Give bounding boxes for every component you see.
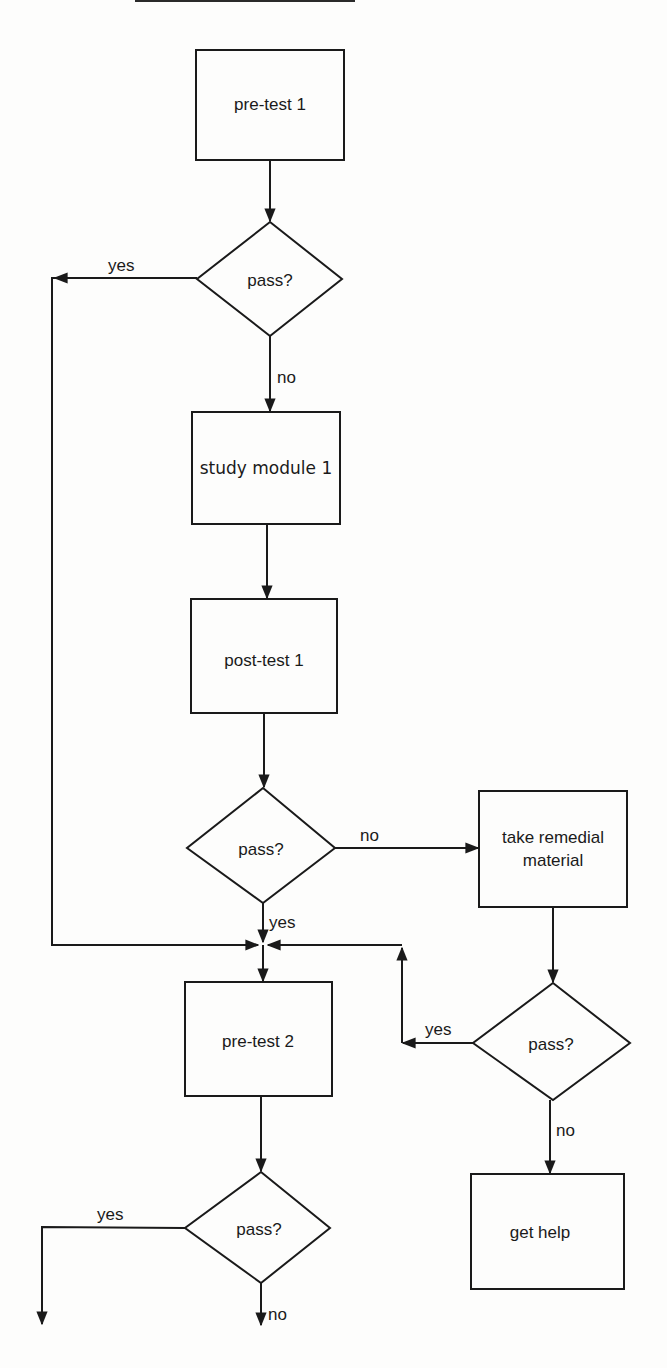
node-study-module-1: study module 1: [192, 412, 340, 524]
node-label: post-test 1: [224, 651, 303, 670]
node-label: pass?: [238, 840, 283, 859]
node-pre-test-2: pre-test 2: [185, 982, 332, 1096]
edge-label-yes: yes: [425, 1020, 451, 1039]
node-label: pre-test 2: [222, 1032, 294, 1051]
node-label-line2: material: [523, 851, 583, 870]
node-label: pass?: [247, 271, 292, 290]
node-decision-4: pass?: [185, 1172, 330, 1283]
node-take-remedial-material: take remedial material: [479, 791, 627, 907]
edge-decision4-yes: [42, 1227, 185, 1324]
node-label: get help: [510, 1223, 571, 1242]
node-label: study module 1: [200, 458, 332, 478]
node-label-line1: take remedial: [502, 828, 604, 847]
node-label: pass?: [236, 1220, 281, 1239]
edge-label-no: no: [268, 1305, 287, 1324]
edge-label-no: no: [360, 826, 379, 845]
node-decision-3: pass?: [473, 983, 630, 1100]
node-post-test-1: post-test 1: [191, 599, 337, 713]
node-decision-2: pass?: [187, 788, 335, 903]
edge-label-yes: yes: [108, 256, 134, 275]
node-label: pre-test 1: [234, 95, 306, 114]
node-label: pass?: [528, 1035, 573, 1054]
edge-label-yes: yes: [269, 913, 295, 932]
node-pre-test-1: pre-test 1: [196, 50, 344, 160]
process-box: [479, 791, 627, 907]
node-decision-1: pass?: [197, 222, 342, 336]
edge-label-no: no: [277, 368, 296, 387]
flowchart: pre-test 1 pass? yes no study module 1 p…: [0, 0, 667, 1368]
node-get-help: get help: [471, 1174, 624, 1289]
edge-label-yes: yes: [97, 1205, 123, 1224]
edge-label-no: no: [556, 1121, 575, 1140]
